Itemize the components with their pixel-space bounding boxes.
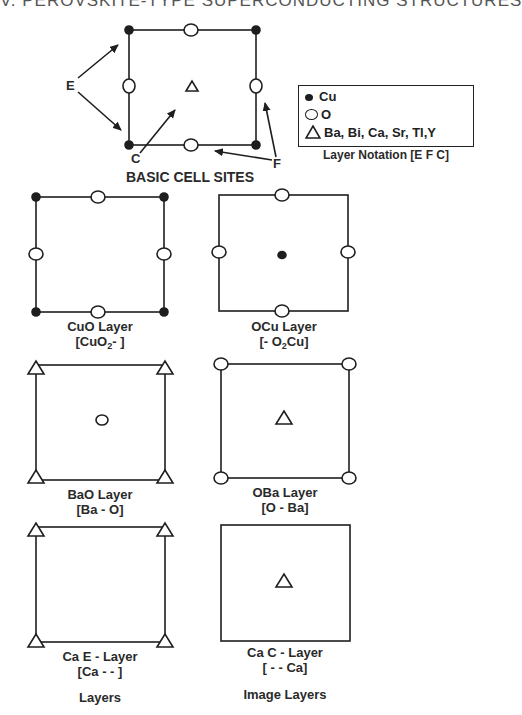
- column-caption-layers: Layers: [20, 690, 180, 705]
- layer-name-ocu: OCu Layer: [204, 319, 364, 334]
- open-circle-icon: [305, 109, 318, 120]
- cuo-layer-diagram: [29, 191, 171, 318]
- legend-box: Cu O Ba, Bi, Ca, Sr, Tl,Y: [298, 85, 474, 147]
- cu-atom-icon: [125, 26, 133, 34]
- layer-notation-cuo: [CuO2- ]: [20, 334, 180, 354]
- layer-notation-ocu: [- O2Cu]: [204, 334, 364, 354]
- pointer-label-e: E: [66, 78, 75, 93]
- legend-caption: Layer Notation [E F C]: [298, 148, 474, 163]
- o-atom-icon: [184, 139, 198, 151]
- cu-atom-icon: [125, 141, 133, 149]
- layer-notation-oba: [O - Ba]: [205, 500, 365, 515]
- legend-item-cu: Cu: [305, 89, 336, 104]
- pointer-label-f: F: [273, 156, 281, 171]
- arrow-f-up-icon: [265, 103, 276, 157]
- bao-layer-diagram: [28, 361, 173, 483]
- pointer-label-c: C: [131, 151, 140, 166]
- layer-name-bao: BaO Layer: [20, 487, 180, 502]
- cu-atom-icon: [252, 141, 260, 149]
- arrow-e-bottom-icon: [78, 92, 121, 130]
- layer-notation-bao: [Ba - O]: [20, 502, 180, 517]
- arrow-c-icon: [140, 110, 175, 153]
- column-caption-image-layers: Image Layers: [205, 687, 365, 702]
- ca-e-layer-diagram: [28, 523, 173, 647]
- layer-name-oba: OBa Layer: [205, 485, 365, 500]
- legend-item-o: O: [305, 107, 331, 122]
- ca-c-layer-diagram: [221, 525, 350, 641]
- oba-layer-diagram: [214, 358, 356, 484]
- layer-notation-ca-e: [Ca - - ]: [20, 664, 180, 679]
- legend-item-cations: Ba, Bi, Ca, Sr, Tl,Y: [305, 125, 436, 140]
- filled-circle-icon: [305, 94, 313, 101]
- o-atom-icon: [250, 79, 262, 93]
- o-atom-icon: [184, 24, 198, 36]
- basic-cell-diagram: [78, 24, 276, 160]
- layer-notation-ca-c: [ - - Ca]: [205, 660, 365, 675]
- triangle-icon: [305, 125, 321, 139]
- cation-triangle-icon: [186, 81, 198, 91]
- layer-name-ca-c: Ca C - Layer: [205, 645, 365, 660]
- basic-cell-title: BASIC CELL SITES: [100, 170, 280, 185]
- arrow-f-left-icon: [215, 151, 272, 160]
- ocu-layer-diagram: [212, 189, 355, 317]
- layer-name-cuo: CuO Layer: [20, 319, 180, 334]
- o-atom-icon: [123, 79, 135, 93]
- arrow-e-top-icon: [78, 45, 118, 78]
- cu-atom-icon: [252, 26, 260, 34]
- layer-name-ca-e: Ca E - Layer: [20, 649, 180, 664]
